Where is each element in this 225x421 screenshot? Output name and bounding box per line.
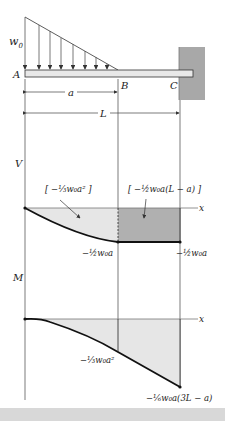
distributed-load: [25, 17, 118, 70]
dimension-l-label: L: [99, 108, 107, 119]
shear-value-b: −½w₀a: [82, 248, 113, 258]
moment-diagram: [23, 317, 198, 388]
moment-value-b: −⅓w₀a²: [80, 355, 115, 365]
dimension-a-label: a: [68, 87, 74, 98]
shear-area-label-2: [ −½w₀a(L − a) ]: [128, 184, 202, 194]
shear-value-c: −½w₀a: [176, 248, 207, 258]
point-c-label: C: [170, 80, 178, 91]
moment-x-label: x: [199, 314, 204, 324]
shear-axis-label: V: [15, 158, 24, 169]
load-label: w0: [9, 35, 23, 50]
beam: [25, 70, 193, 77]
shear-diagram: [23, 199, 198, 244]
shear-x-label: x: [199, 203, 204, 213]
shear-area-label-1: [ −⅓w₀a² ]: [45, 184, 92, 194]
beam-diagram: w0 A B C a L V x [ −⅓w₀a² ] [ −½w₀a(L − …: [0, 0, 225, 421]
point-b-label: B: [120, 80, 128, 91]
bottom-bar: [0, 408, 225, 421]
moment-axis-label: M: [12, 272, 24, 283]
point-a-label: A: [12, 69, 20, 80]
moment-value-c: −⅙w₀a(3L − a): [146, 393, 212, 403]
